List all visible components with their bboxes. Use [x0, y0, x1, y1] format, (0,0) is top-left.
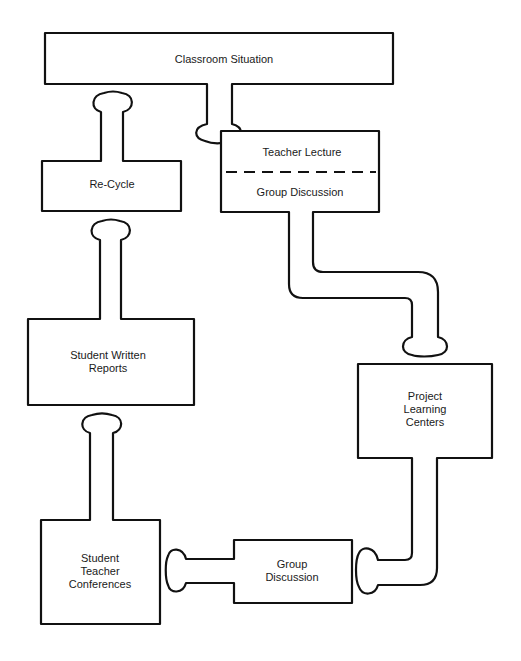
- recycle-label: Re-Cycle: [89, 178, 134, 191]
- written-reports-label: Student Written Reports: [70, 349, 146, 375]
- project-centers-label: Project Learning Centers: [404, 390, 447, 429]
- group-discussion-1-label: Group Discussion: [257, 186, 344, 199]
- conferences-line-1: Student: [69, 552, 131, 565]
- conferences-label: Student Teacher Conferences: [69, 552, 131, 591]
- written-reports-box: [28, 220, 194, 406]
- conferences-box: [41, 414, 160, 625]
- written-reports-line-1: Student Written: [70, 349, 146, 362]
- project-centers-line-1: Project: [404, 390, 447, 403]
- written-reports-line-2: Reports: [70, 362, 146, 375]
- conferences-line-2: Teacher: [69, 565, 131, 578]
- classroom-situation-box: [45, 33, 393, 143]
- teacher-lecture-box: [221, 131, 447, 357]
- project-centers-line-3: Centers: [404, 416, 447, 429]
- group-discussion-2-label: Group Discussion: [265, 558, 318, 584]
- project-centers-line-2: Learning: [404, 403, 447, 416]
- classroom-situation-label: Classroom Situation: [175, 53, 273, 66]
- recycle-box: [42, 92, 181, 212]
- group-discussion-2-box: [166, 540, 352, 603]
- teacher-lecture-label: Teacher Lecture: [263, 146, 342, 159]
- group-discussion-2-line-1: Group: [265, 558, 318, 571]
- group-discussion-2-line-2: Discussion: [265, 571, 318, 584]
- conferences-line-3: Conferences: [69, 578, 131, 591]
